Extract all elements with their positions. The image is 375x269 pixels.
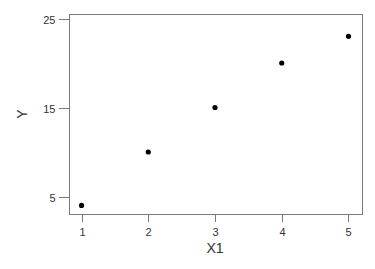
x-axis: 12345 <box>79 215 351 238</box>
x-tick-label: 4 <box>279 226 285 238</box>
x-tick-label: 5 <box>345 226 351 238</box>
data-point <box>146 149 151 154</box>
data-point <box>212 105 217 110</box>
data-point <box>79 203 84 208</box>
x-tick-label: 1 <box>79 226 85 238</box>
data-point <box>279 60 284 65</box>
y-axis: 51525 <box>43 14 69 204</box>
y-tick-label: 5 <box>49 192 55 204</box>
plot-frame <box>70 15 363 215</box>
y-tick-label: 15 <box>43 103 55 115</box>
x-tick-label: 3 <box>212 226 218 238</box>
data-points <box>79 34 351 208</box>
x-axis-title: X1 <box>206 240 223 256</box>
scatter-chart: 12345 51525 X1 Y <box>0 0 375 269</box>
y-tick-label: 25 <box>43 14 55 26</box>
x-tick-label: 2 <box>145 226 151 238</box>
y-axis-title: Y <box>14 109 30 119</box>
data-point <box>346 34 351 39</box>
